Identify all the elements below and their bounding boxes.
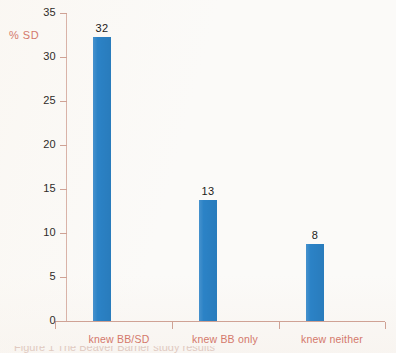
y-axis-tick-label: 30 (16, 50, 56, 62)
caption-sliver: Figure 1 The Beaver Barrier study result… (14, 346, 215, 353)
y-axis-tick-label: 20 (16, 138, 56, 150)
y-axis-tick-label: 5 (16, 270, 56, 282)
y-axis-tick-label: 0 (16, 314, 56, 326)
y-axis-tick (60, 233, 67, 234)
plot-area: 0510152025303532knew BB/SD13knew BB only… (0, 0, 396, 353)
bar (93, 37, 111, 321)
x-axis-category-label: knew BB only (192, 333, 258, 345)
y-axis-tick-label: 10 (16, 226, 56, 238)
bar-value-label: 13 (202, 185, 215, 197)
x-axis-line (55, 321, 385, 322)
x-axis-category-label: knew neither (301, 333, 363, 345)
x-axis-category-label: knew BB/SD (89, 333, 150, 345)
y-axis-line (66, 13, 67, 322)
y-axis-tick (60, 277, 67, 278)
bar-value-label: 32 (96, 22, 109, 34)
x-axis-tick (279, 322, 280, 329)
y-axis-tick (60, 57, 67, 58)
y-axis-tick (60, 145, 67, 146)
caption-text: Figure 1 The Beaver Barrier study result… (14, 346, 215, 353)
y-axis-tick (60, 101, 67, 102)
y-axis-tick-label: 25 (16, 94, 56, 106)
y-axis-tick-label: 35 (16, 6, 56, 18)
x-axis-tick (385, 322, 386, 329)
bar-chart: % SD 0510152025303532knew BB/SD13knew BB… (0, 0, 396, 353)
x-axis-tick (172, 322, 173, 329)
x-axis-tick (55, 322, 56, 329)
bar (306, 244, 324, 321)
bar-value-label: 8 (312, 229, 318, 241)
y-axis-tick (60, 13, 67, 14)
y-axis-tick (60, 321, 67, 322)
bar (199, 200, 217, 321)
y-axis-tick (60, 189, 67, 190)
y-axis-tick-label: 15 (16, 182, 56, 194)
